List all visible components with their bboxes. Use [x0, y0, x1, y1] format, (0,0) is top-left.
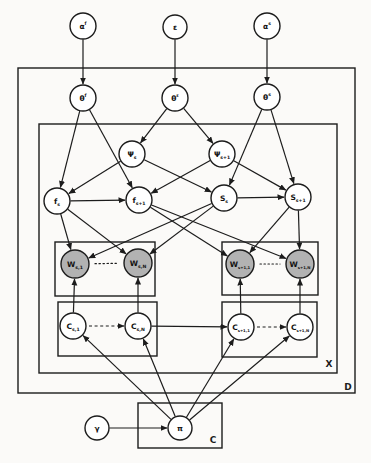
edge-psi-s1-f-s1 [151, 161, 210, 194]
node-label-epsilon: ε [173, 23, 177, 32]
nodes-layer: αfεαsθfθεθsΨsΨs+1fsfs+1SsSs+1Ws,1Ws,NWs+… [44, 13, 314, 440]
node-C-s-N: Cs,N [125, 313, 151, 339]
node-circle-S-s1 [285, 184, 311, 210]
graph-canvas: DXC αfεαsθfθεθsΨsΨs+1fsfs+1SsSs+1Ws,1Ws,… [0, 0, 371, 463]
edge-theta-s-S-s1 [271, 110, 294, 184]
node-W-s1-N: Ws+1,N [286, 250, 314, 278]
graphical-model-figure: DXC αfεαsθfθεθsΨsΨs+1fsfs+1SsSs+1Ws,1Ws,… [0, 0, 371, 463]
node-W-s-1: Ws,1 [61, 250, 89, 278]
node-f-s: fs [44, 188, 70, 214]
edge-pi-C-s1-1 [186, 339, 233, 417]
edge-f-s-W-s-1 [61, 214, 71, 250]
node-C-s1-N: Cs+1,N [287, 314, 313, 340]
plate-label-D: D [344, 382, 351, 392]
node-theta-s: θs [254, 84, 280, 110]
edge-f-s-W-s-N [68, 209, 126, 254]
edge-theta-f-f-s [60, 111, 79, 187]
node-theta-f: θf [70, 85, 96, 111]
edge-C-s-N-C-s1-1 [151, 326, 227, 327]
node-gamma: γ [85, 416, 109, 440]
node-circle-W-s-N [124, 249, 152, 277]
plate-label-X: X [326, 359, 333, 369]
edge-pi-C-s-1 [83, 336, 171, 420]
node-epsilon: ε [163, 15, 187, 39]
node-C-s1-1: Cs+1,1 [228, 314, 254, 340]
node-psi-s1: Ψs+1 [209, 141, 235, 167]
edge-psi-s-f-s [69, 161, 121, 193]
edge-C-s-1-W-s-1 [73, 279, 74, 313]
node-W-s1-1: Ws+1,1 [226, 250, 254, 278]
edge-pi-C-s1-N [190, 336, 290, 420]
edge-pi-C-s-N [143, 339, 175, 416]
edge-psi-s1-S-s1 [234, 161, 286, 190]
node-C-s-1: Cs,1 [60, 313, 86, 339]
node-S-s1: Ss+1 [285, 184, 311, 210]
node-circle-f-s1 [126, 187, 152, 213]
node-W-s-N: Ws,N [124, 249, 152, 277]
edge-C-s1-1-W-s1-1 [240, 279, 241, 314]
edge-S-s1-W-s1-N [298, 210, 299, 249]
plate-label-C: C [210, 435, 217, 445]
node-circle-C-s-N [125, 313, 151, 339]
node-alpha-s: αs [254, 13, 280, 39]
edge-theta-e-psi-s [141, 109, 167, 143]
node-label-pi: π [177, 424, 183, 433]
node-f-s1: fs+1 [126, 187, 152, 213]
edge-f-s-f-s1 [70, 200, 125, 201]
node-pi: π [168, 416, 192, 440]
edge-psi-s-S-s [144, 160, 211, 192]
edge-theta-e-psi-s1 [184, 108, 213, 143]
node-label-gamma: γ [94, 424, 99, 433]
node-S-s: Ss [211, 185, 237, 211]
node-psi-s: Ψs [119, 141, 145, 167]
edge-S-s-S-s1 [237, 197, 284, 198]
edge-S-s-W-s-1 [89, 203, 212, 257]
edge-f-s1-W-s1-1 [150, 207, 227, 256]
node-alpha-f: αf [70, 13, 96, 39]
node-circle-C-s-1 [60, 313, 86, 339]
node-theta-e: θε [162, 85, 188, 111]
node-circle-psi-s1 [209, 141, 235, 167]
edge-S-s1-W-s1-1 [250, 207, 289, 252]
